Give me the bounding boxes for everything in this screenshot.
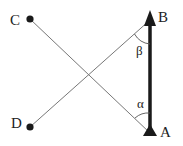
triangle-support-icon xyxy=(143,124,157,136)
geometry-diagram: C D B A β α xyxy=(0,0,183,146)
label-c: C xyxy=(10,12,20,28)
point-d-dot xyxy=(26,123,33,130)
label-alpha: α xyxy=(137,96,144,111)
point-c-dot xyxy=(26,15,33,22)
label-b: B xyxy=(158,9,168,25)
arrow-up-icon xyxy=(144,10,156,26)
angle-alpha-arc xyxy=(135,113,150,118)
label-beta: β xyxy=(136,43,143,58)
label-a: A xyxy=(160,124,171,140)
label-d: D xyxy=(11,115,22,131)
